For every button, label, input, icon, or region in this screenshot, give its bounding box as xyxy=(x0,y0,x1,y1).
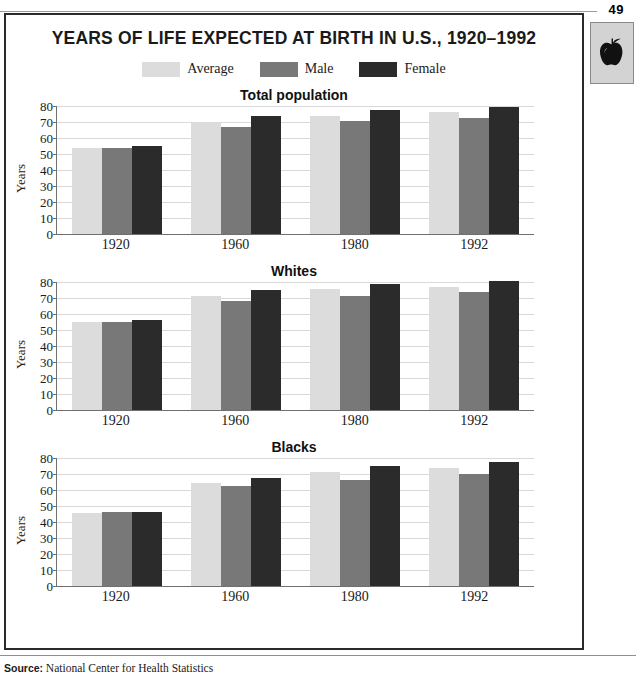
x-tick-labels: 1920196019801992 xyxy=(6,413,534,429)
legend-label-average: Average xyxy=(187,61,233,77)
x-tick-label: 1920 xyxy=(56,413,176,429)
bar-male-1980 xyxy=(340,296,370,410)
bar-female-1960 xyxy=(251,290,281,410)
legend-item-male: Male xyxy=(260,61,334,77)
bar-average-1960 xyxy=(191,122,221,234)
bar-female-1920 xyxy=(132,320,162,410)
bar-female-1980 xyxy=(370,466,400,586)
y-tick-label: 10 xyxy=(40,564,53,577)
plot-area xyxy=(56,106,534,235)
bar-male-1992 xyxy=(459,474,489,586)
bar-male-1920 xyxy=(102,322,132,410)
bar-female-1992 xyxy=(489,281,519,410)
top-divider xyxy=(0,11,597,12)
page-number: 49 xyxy=(609,2,624,17)
bar-groups xyxy=(57,106,534,234)
y-tick-label: 10 xyxy=(40,388,53,401)
bar-female-1992 xyxy=(489,107,519,234)
subchart-total-population: Total populationYears8070605040302010019… xyxy=(6,87,582,253)
x-tick-label: 1980 xyxy=(295,237,415,253)
legend-label-female: Female xyxy=(404,61,445,77)
plot-row: Years80706050403020100 xyxy=(6,458,582,587)
plot-row: Years80706050403020100 xyxy=(6,282,582,411)
bar-group-1992 xyxy=(415,282,534,410)
bar-group-1992 xyxy=(415,458,534,586)
bar-group-1980 xyxy=(296,282,415,410)
bar-average-1980 xyxy=(310,472,340,586)
bottom-divider xyxy=(0,655,636,656)
x-tick-label: 1960 xyxy=(176,589,296,605)
legend-label-male: Male xyxy=(305,61,334,77)
y-tick-label: 20 xyxy=(40,196,53,209)
bar-groups xyxy=(57,282,534,410)
y-tick-label: 60 xyxy=(40,308,53,321)
y-tick-label: 20 xyxy=(40,372,53,385)
y-tick-label: 30 xyxy=(40,356,53,369)
bar-average-1920 xyxy=(72,148,102,234)
y-axis-title: Years xyxy=(12,458,30,587)
bar-average-1992 xyxy=(429,468,459,586)
bar-average-1960 xyxy=(191,296,221,410)
y-tick-mark xyxy=(53,586,57,587)
bar-group-1920 xyxy=(57,458,176,586)
y-tick-label: 70 xyxy=(40,292,53,305)
y-tick-label: 50 xyxy=(40,148,53,161)
legend-swatch-male xyxy=(260,62,298,77)
y-tick-label: 10 xyxy=(40,212,53,225)
bar-male-1960 xyxy=(221,486,251,586)
bar-groups xyxy=(57,458,534,586)
y-tick-label: 30 xyxy=(40,532,53,545)
x-tick-label: 1992 xyxy=(415,413,535,429)
bar-female-1960 xyxy=(251,116,281,234)
bar-group-1920 xyxy=(57,282,176,410)
y-tick-label: 40 xyxy=(40,516,53,529)
y-tick-label: 50 xyxy=(40,500,53,513)
x-tick-label: 1980 xyxy=(295,589,415,605)
x-tick-label: 1960 xyxy=(176,237,296,253)
bar-average-1920 xyxy=(72,513,102,586)
bar-female-1920 xyxy=(132,146,162,234)
bar-group-1980 xyxy=(296,106,415,234)
page-title: YEARS OF LIFE EXPECTED AT BIRTH IN U.S.,… xyxy=(6,28,582,49)
legend-item-female: Female xyxy=(359,61,445,77)
y-axis-title: Years xyxy=(12,106,30,235)
subchart-title: Blacks xyxy=(6,439,582,455)
x-tick-label: 1960 xyxy=(176,413,296,429)
y-tick-label: 60 xyxy=(40,132,53,145)
x-tick-labels: 1920196019801992 xyxy=(6,237,534,253)
bar-group-1992 xyxy=(415,106,534,234)
bar-female-1980 xyxy=(370,110,400,234)
legend: Average Male Female xyxy=(6,61,582,77)
plot-row: Years80706050403020100 xyxy=(6,106,582,235)
bar-male-1980 xyxy=(340,121,370,234)
legend-swatch-average xyxy=(142,62,180,77)
bar-male-1920 xyxy=(102,148,132,234)
y-tick-label: 80 xyxy=(40,100,53,113)
bar-average-1980 xyxy=(310,289,340,410)
x-tick-label: 1920 xyxy=(56,237,176,253)
subchart-whites: WhitesYears80706050403020100192019601980… xyxy=(6,263,582,429)
bar-average-1960 xyxy=(191,483,221,586)
subchart-title: Whites xyxy=(6,263,582,279)
y-tick-label: 40 xyxy=(40,340,53,353)
x-tick-label: 1920 xyxy=(56,589,176,605)
x-tick-labels: 1920196019801992 xyxy=(6,589,534,605)
bar-male-1960 xyxy=(221,127,251,234)
charts-host: Total populationYears8070605040302010019… xyxy=(6,87,582,605)
bar-average-1980 xyxy=(310,116,340,234)
bar-female-1980 xyxy=(370,284,400,410)
y-tick-mark xyxy=(53,234,57,235)
bar-male-1920 xyxy=(102,512,132,586)
bar-female-1992 xyxy=(489,462,519,586)
y-tick-label: 40 xyxy=(40,164,53,177)
bar-average-1992 xyxy=(429,112,459,234)
y-tick-label: 30 xyxy=(40,180,53,193)
x-tick-label: 1980 xyxy=(295,413,415,429)
plot-area xyxy=(56,458,534,587)
bar-female-1920 xyxy=(132,512,162,586)
legend-item-average: Average xyxy=(142,61,233,77)
plot-area xyxy=(56,282,534,411)
y-axis-title: Years xyxy=(12,282,30,411)
subchart-blacks: BlacksYears80706050403020100192019601980… xyxy=(6,439,582,605)
y-tick-label: 20 xyxy=(40,548,53,561)
